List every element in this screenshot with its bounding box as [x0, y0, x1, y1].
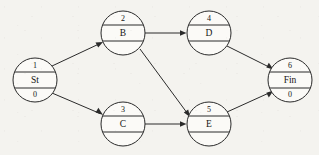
- node-d[interactable]: 4 D: [187, 11, 231, 55]
- node-c[interactable]: 3 C: [101, 102, 145, 146]
- node-fin-value: 0: [288, 90, 292, 99]
- node-fin-id: 6: [288, 61, 292, 70]
- edge-b-to-d-arrowhead: [180, 30, 187, 35]
- edge-d-to-fin[interactable]: [227, 46, 274, 70]
- edge-st-to-c-arrowhead: [96, 108, 103, 115]
- edge-e-to-fin[interactable]: [227, 91, 274, 113]
- edge-d-to-fin-line: [227, 46, 270, 68]
- node-b-id: 2: [121, 14, 125, 23]
- node-c-id: 3: [121, 105, 125, 114]
- node-d-id: 4: [207, 14, 211, 23]
- node-fin-label: Fin: [284, 75, 297, 85]
- node-e-id: 5: [207, 105, 211, 114]
- edge-st-to-c-line: [52, 93, 100, 114]
- edge-c-to-e[interactable]: [145, 121, 187, 126]
- edge-c-to-e-arrowhead: [180, 121, 187, 126]
- node-group: 1 St 0 2 B 3 C: [13, 11, 312, 146]
- node-st-id: 1: [33, 61, 37, 70]
- node-e-label: E: [206, 119, 212, 129]
- node-d-label: D: [206, 28, 213, 38]
- diagram-canvas: 1 St 0 2 B 3 C: [0, 0, 319, 155]
- edge-b-to-e[interactable]: [140, 49, 190, 117]
- node-b[interactable]: 2 B: [101, 11, 145, 55]
- activity-network-diagram: 1 St 0 2 B 3 C: [0, 0, 319, 155]
- node-st-value: 0: [33, 90, 37, 99]
- edge-st-to-c[interactable]: [52, 93, 103, 115]
- edge-st-to-b-line: [52, 44, 100, 67]
- node-st-label: St: [31, 75, 39, 85]
- edge-group: [52, 30, 274, 126]
- edge-e-to-fin-line: [227, 93, 270, 113]
- edge-st-to-b[interactable]: [52, 42, 103, 66]
- edge-b-to-e-line: [140, 49, 188, 114]
- node-b-label: B: [120, 28, 126, 38]
- edge-b-to-d[interactable]: [145, 30, 187, 35]
- node-fin[interactable]: 6 Fin 0: [268, 58, 312, 102]
- node-st[interactable]: 1 St 0: [13, 58, 57, 102]
- node-e[interactable]: 5 E: [187, 102, 231, 146]
- node-c-label: C: [120, 119, 126, 129]
